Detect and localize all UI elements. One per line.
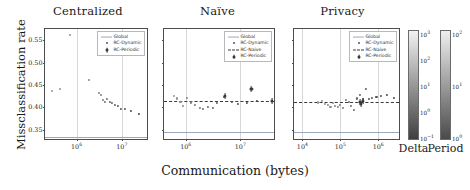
legend-entry: RC-Periodic [100,47,141,54]
x-tick-label: 107 [235,142,246,151]
legend-dot-marker-icon [100,40,113,47]
data-point [386,94,388,96]
data-point [342,107,344,109]
data-point [356,97,358,99]
colorbar-tick-label: 101 [452,82,462,90]
legend-entry: RC-Dynamic [352,40,393,47]
y-tick-mark [162,40,164,41]
panel-privacy: Privacy 104105106GlobalRC-DynamicRC-Naiv… [285,0,405,190]
data-point [138,113,140,115]
panel-title-privacy: Privacy [285,4,400,18]
data-point [130,109,132,111]
data-point [69,34,71,36]
plot-area-privacy: 104105106GlobalRC-DynamicRC-NaiveRC-Peri… [293,28,400,140]
y-tick-mark [162,85,164,86]
global-reference-line [45,137,147,138]
data-point [339,104,341,106]
legend-line-icon [352,34,365,41]
panel-centralized: Centralized 1061070.350.400.450.500.55Gl… [0,0,155,190]
legend-privacy: GlobalRC-DynamicRC-NaiveRC-Periodic [349,31,397,62]
y-tick-label: 0.40 [28,103,42,111]
x-tick-label: 107 [116,142,127,151]
data-point [98,92,100,94]
colorbar-period: 102101100 [440,30,451,140]
legend-label: RC-Naive [240,47,261,54]
legend-label: RC-Periodic [240,53,266,60]
gridline-vertical [186,29,187,139]
y-tick-mark [43,85,45,86]
legend-entry: Global [352,34,393,41]
legend-dashed-line-icon [227,47,240,54]
legend-dot-marker-icon [227,40,240,47]
data-point [173,95,175,97]
data-point [375,96,377,98]
legend-label: RC-Dynamic [240,40,268,47]
data-point [106,98,108,100]
data-point [368,98,370,100]
legend-entry: RC-Dynamic [100,40,141,47]
legend-errorbar-marker-icon [352,53,365,60]
legend-line-icon [227,34,240,41]
data-point [202,108,204,110]
y-tick-mark [292,107,294,108]
colorbar-tick-label: 101 [420,82,430,90]
data-point [104,101,106,103]
data-point [359,94,361,96]
x-tick-label: 106 [180,142,191,151]
legend-label: RC-Dynamic [113,40,141,47]
data-point [365,88,367,90]
data-point [246,102,248,104]
legend-label: Global [113,34,128,41]
legend-line-icon [100,34,113,41]
panel-naive: Naïve 106107GlobalRC-DynamicRC-NaiveRC-P… [155,0,285,190]
gridline-vertical [340,29,341,139]
naive-reference-line [294,102,399,103]
data-point [59,88,61,90]
legend-label: Global [365,34,380,41]
global-reference-line [164,132,274,133]
y-tick-label: 0.50 [28,59,42,67]
legend-label: RC-Periodic [365,53,391,60]
y-tick-mark [292,130,294,131]
data-point [317,101,319,103]
colorbar-tick-label: 102 [420,56,430,64]
y-tick-mark [43,40,45,41]
y-tick-mark [292,40,294,41]
y-tick-mark [292,63,294,64]
data-point [337,106,339,108]
data-point [182,105,184,107]
y-tick-mark [162,107,164,108]
colorbar-tick-label: 103 [420,30,430,38]
data-point [124,108,126,110]
data-point [380,95,382,97]
legend-errorbar-marker-icon [227,53,240,60]
global-reference-line [294,132,399,133]
y-tick-mark [292,85,294,86]
x-axis-label: Communication (bytes) [0,163,470,178]
data-point [231,101,233,103]
y-tick-mark [43,63,45,64]
y-tick-label: 0.35 [28,126,42,134]
colorbar-tick-label: 100 [452,134,462,142]
x-tick-label: 104 [297,142,308,151]
legend-nave: GlobalRC-DynamicRC-NaiveRC-Periodic [224,31,272,62]
data-point [237,103,239,105]
data-point [223,95,226,98]
legend-centralized: GlobalRC-DynamicRC-Periodic [97,31,145,56]
y-tick-mark [162,63,164,64]
plot-area-centralized: 1061070.350.400.450.500.55GlobalRC-Dynam… [44,28,148,140]
y-tick-label: 0.45 [28,81,42,89]
data-point [250,87,253,90]
data-point [216,102,218,104]
legend-entry: RC-Naive [227,47,268,54]
legend-entry: RC-Periodic [352,53,393,60]
data-point [329,105,331,107]
data-point [186,96,188,98]
data-point [190,101,192,103]
legend-entry: Global [100,34,141,41]
colorbar-delta-label: Delta [399,142,429,155]
legend-label: RC-Naive [365,47,386,54]
y-tick-mark [43,107,45,108]
colorbar-period-label: Period [428,142,464,155]
y-tick-mark [162,130,164,131]
